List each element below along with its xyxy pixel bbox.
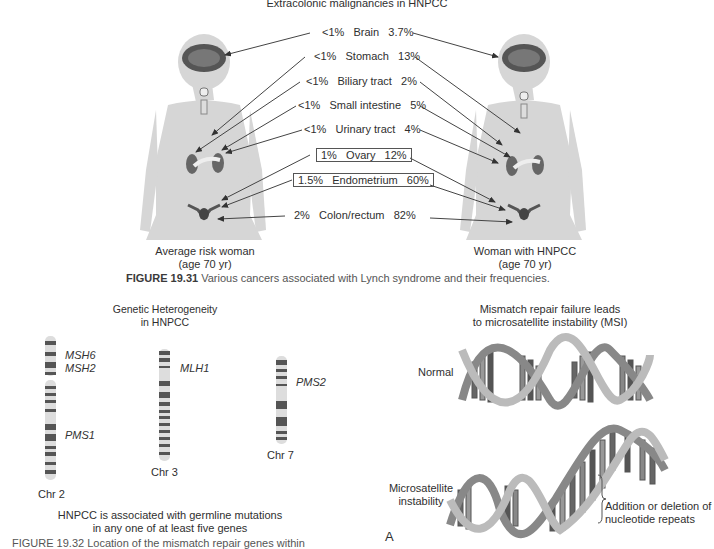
normal-label: Normal — [418, 366, 453, 378]
msi-label: Microsatellite instability — [376, 482, 466, 508]
repeat-annotation: Addition or deletion of nucleotide repea… — [605, 500, 711, 526]
normal-dna-helix — [462, 337, 650, 406]
cut-off-caption: FIGURE 19.32 Location of the mismatch re… — [12, 537, 305, 549]
panel-letter: A — [385, 529, 394, 544]
